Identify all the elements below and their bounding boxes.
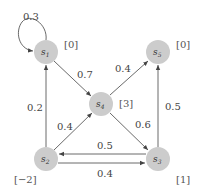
node-s5: s5 xyxy=(146,40,170,64)
label-s3-s2: 0.5 xyxy=(97,140,113,151)
label-s2-s3: 0.4 xyxy=(97,168,113,179)
label-s2-s1: 0.2 xyxy=(27,102,43,113)
edges xyxy=(18,18,158,163)
node-s2: s2 xyxy=(34,147,58,171)
node-s1: s1 xyxy=(34,40,58,64)
label-s4-s3: 0.6 xyxy=(135,119,151,130)
label-s4-s5: 0.4 xyxy=(115,63,131,74)
reward-s4: [3] xyxy=(119,98,133,109)
label-s3-s5: 0.5 xyxy=(165,101,181,112)
label-s2-s4: 0.4 xyxy=(57,121,73,132)
reward-s5: [0] xyxy=(176,39,190,50)
node-s3: s3 xyxy=(146,147,170,171)
label-s1-s1: 0.3 xyxy=(23,11,39,22)
node-s4: s4 xyxy=(89,92,113,116)
reward-s3: [1] xyxy=(176,174,190,185)
markov-diagram: 0.3 0.7 0.2 0.4 0.4 0.5 0.5 0.4 0.6 s1 s… xyxy=(0,0,203,190)
label-s1-s4: 0.7 xyxy=(77,69,93,80)
reward-s2: [−2] xyxy=(14,174,37,185)
reward-s1: [0] xyxy=(64,39,78,50)
